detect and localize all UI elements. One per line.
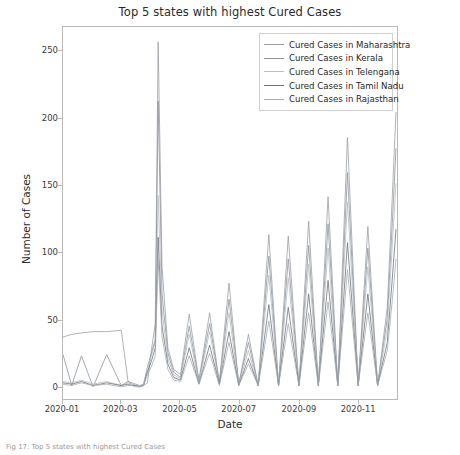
x-tick-label: 2020-09: [282, 404, 317, 414]
series-line: [63, 229, 396, 387]
legend-line-icon: [264, 44, 284, 45]
page-title: Top 5 states with highest Cured Cases: [0, 5, 460, 19]
legend-line-icon: [264, 85, 284, 86]
y-tick-label: 50: [18, 315, 58, 325]
legend-item-label: Cured Cases in Maharashtra: [289, 40, 410, 50]
legend-item[interactable]: Cured Cases in Maharashtra: [264, 38, 387, 52]
y-tick-label: 200: [18, 113, 58, 123]
legend-line-icon: [264, 71, 284, 72]
x-axis-label: Date: [62, 418, 398, 430]
legend-item-label: Cured Cases in Rajasthan: [289, 94, 399, 104]
legend-item[interactable]: Cured Cases in Rajasthan: [264, 92, 387, 106]
legend-item-label: Cured Cases in Tamil Nadu: [289, 81, 404, 91]
x-tick-label: 2020-05: [162, 404, 197, 414]
x-tick-mark: [358, 400, 359, 404]
x-tick-label: 2020-01: [45, 404, 80, 414]
x-tick-mark: [299, 400, 300, 404]
legend-item-label: Cured Cases in Telengana: [289, 67, 400, 77]
y-tick-label: 0: [18, 382, 58, 392]
x-tick-label: 2020-03: [103, 404, 138, 414]
x-tick-mark: [120, 400, 121, 404]
y-tick-label: 250: [18, 45, 58, 55]
x-tick-mark: [62, 400, 63, 404]
x-tick-label: 2020-11: [341, 404, 376, 414]
x-tick-mark: [239, 400, 240, 404]
legend-line-icon: [264, 99, 284, 100]
x-tick-mark: [179, 400, 180, 404]
y-axis-label: Number of Cases: [20, 139, 32, 299]
x-tick-label: 2020-07: [221, 404, 256, 414]
legend-item-label: Cured Cases in Kerala: [289, 53, 383, 63]
legend-line-icon: [264, 58, 284, 59]
figure-container: Top 5 states with highest Cured Cases 05…: [0, 0, 460, 455]
chart-legend: Cured Cases in MaharashtraCured Cases in…: [259, 33, 393, 111]
legend-item[interactable]: Cured Cases in Kerala: [264, 52, 387, 66]
figure-caption: Fig 17: Top 5 states with highest Cured …: [6, 443, 165, 453]
legend-item[interactable]: Cured Cases in Tamil Nadu: [264, 79, 387, 93]
legend-item[interactable]: Cured Cases in Telengana: [264, 65, 387, 79]
